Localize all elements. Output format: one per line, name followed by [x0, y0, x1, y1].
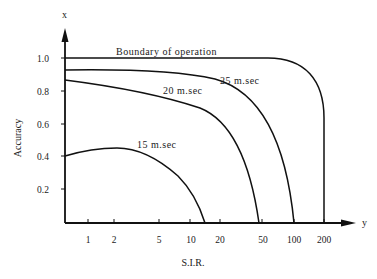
x-axis-label: S.I.R.	[181, 257, 204, 268]
x-tick-label: 50	[258, 235, 268, 245]
x-tick-label: 1	[86, 235, 91, 245]
x-tick-label: 20	[215, 235, 225, 245]
curve-15-msec	[65, 148, 205, 223]
x-tick-label: 200	[317, 235, 332, 245]
y-tick-label: 0.8	[37, 87, 49, 97]
x-axis-arrow-icon	[341, 220, 356, 227]
x-tick-label: 5	[157, 235, 162, 245]
boundary-label: Boundary of operation	[116, 46, 217, 57]
accuracy-vs-sir-chart: x y 1.0 0.8 0.6 0.4 0.2 Accuracy 1 2 5 1…	[0, 0, 377, 279]
label-15-msec: 15 m.sec	[137, 139, 177, 150]
y-tick-label: 0.4	[37, 152, 49, 162]
y-tick-labels: 1.0 0.8 0.6 0.4 0.2	[37, 54, 49, 195]
y-tick-label: 0.6	[37, 120, 49, 130]
y-axis-arrow-icon	[62, 28, 69, 42]
y-tick-label: 1.0	[37, 54, 49, 64]
y-axis-letter: x	[62, 9, 67, 20]
y-axis-label: Accuracy	[12, 119, 23, 157]
y-tick-label: 0.2	[37, 185, 49, 195]
curve-20-msec	[65, 80, 259, 223]
label-20-msec: 20 m.sec	[163, 85, 203, 96]
x-axis-letter: y	[362, 217, 367, 228]
x-tick-label: 100	[287, 235, 302, 245]
x-tick-labels: 1 2 5 10 20 50 100 200	[86, 235, 332, 245]
x-tick-label: 2	[112, 235, 117, 245]
x-tick-label: 10	[186, 235, 196, 245]
label-25-msec: 25 m.sec	[220, 75, 260, 86]
